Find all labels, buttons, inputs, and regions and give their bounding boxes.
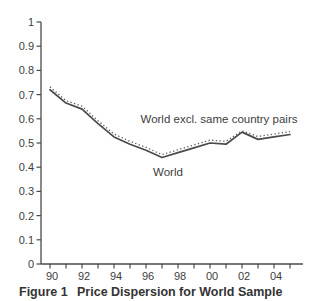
x-tick-label: 92 xyxy=(78,270,90,282)
y-tick-label: 0.3 xyxy=(19,185,34,197)
y-tick-label: 0.5 xyxy=(19,137,34,149)
y-tick-label: 1 xyxy=(28,16,34,28)
y-axis-ticks: 00.10.20.30.40.50.60.70.80.91 xyxy=(19,16,41,270)
y-tick-label: 0.6 xyxy=(19,113,34,125)
y-tick-label: 0.2 xyxy=(19,210,34,222)
price-dispersion-chart: 00.10.20.30.40.50.60.70.80.91 9092949698… xyxy=(0,0,310,301)
x-tick-label: 96 xyxy=(142,270,154,282)
x-tick-label: 94 xyxy=(110,270,122,282)
y-tick-label: 0.9 xyxy=(19,40,34,52)
x-tick-label: 04 xyxy=(270,270,282,282)
y-tick-label: 0.7 xyxy=(19,89,34,101)
y-tick-label: 0.4 xyxy=(19,161,34,173)
y-tick-label: 0.8 xyxy=(19,64,34,76)
y-tick-label: 0.1 xyxy=(19,234,34,246)
figure-caption-title: Price Dispersion for World Sample xyxy=(77,285,282,299)
x-tick-label: 02 xyxy=(238,270,250,282)
y-tick-label: 0 xyxy=(28,258,34,270)
figure-caption-number: Figure 1 xyxy=(19,285,68,299)
x-tick-label: 98 xyxy=(174,270,186,282)
x-axis-ticks: 9092949698000204 xyxy=(46,264,290,282)
figure-panel: 00.10.20.30.40.50.60.70.80.91 9092949698… xyxy=(0,0,310,301)
x-tick-label: 00 xyxy=(206,270,218,282)
x-tick-label: 90 xyxy=(46,270,58,282)
series-label-world: World xyxy=(153,166,183,178)
series-label-world-excl: World excl. same country pairs xyxy=(140,113,297,125)
